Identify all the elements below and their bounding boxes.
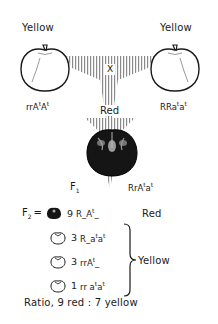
f2-row-yellow-2: 3 rrAt_ [50,254,99,269]
right-parent-genotype: RRatat [160,100,187,112]
f2-yellow-phenotype: Yellow [138,255,170,266]
right-parent-phenotype: Yellow [160,22,192,33]
f1-genotype: RrAtat [128,181,153,193]
yellow-fruit-small-icon [50,230,66,245]
f2-label: F2= [22,207,42,220]
left-parent-genotype: rrAtAt [26,100,49,112]
yellow-bracket [120,222,140,298]
f2-row-yellow-1: 3 R_atat [50,230,105,245]
yellow-fruit-right [148,42,202,94]
red-fruit-f1 [84,126,140,178]
left-parent-phenotype: Yellow [22,22,54,33]
f2-row-red: 9 R_At_ [46,206,99,220]
red-fruit-small-icon [46,206,62,220]
f1-phenotype: Red [98,105,121,116]
ratio-text: Ratio, 9 red : 7 yellow [24,297,138,308]
yellow-fruit-small-icon [50,278,66,293]
f2-row-genotype: R_At_ [76,207,99,219]
yellow-fruit-small-icon [50,254,66,269]
f1-label: F1 [70,181,80,194]
f2-red-phenotype: Red [142,208,162,219]
f2-row-yellow-3: 1 rr atat [50,278,105,293]
yellow-fruit-left [18,42,72,94]
cross-symbol: X [105,64,115,75]
